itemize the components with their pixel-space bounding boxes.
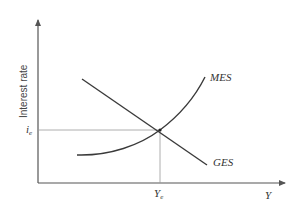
equilibrium-output-label: Ye	[154, 187, 163, 201]
x-axis-label: Y	[265, 189, 273, 201]
y-axis-label: Interest rate	[18, 64, 29, 118]
equilibrium-rate-label: ie	[26, 123, 32, 137]
mes-label: MES	[209, 71, 232, 83]
equilibrium-point	[158, 128, 161, 131]
ges-label: GES	[213, 156, 234, 168]
ges-curve	[82, 79, 207, 165]
is-lm-style-diagram: Interest rate ie Ye Y MES GES	[0, 0, 297, 209]
